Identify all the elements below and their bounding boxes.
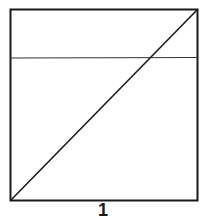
- horizontal-line: [11, 58, 198, 59]
- diagram-canvas: [0, 0, 206, 223]
- figure-label: 1: [0, 200, 206, 221]
- diagonal-line: [11, 10, 198, 201]
